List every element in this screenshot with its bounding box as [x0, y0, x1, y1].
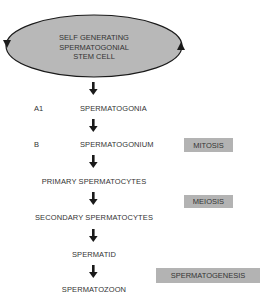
badge-meiosis: MEIOSIS — [184, 195, 233, 208]
stage-prefix-a1: A1 — [34, 104, 43, 113]
stage-spermatozoon: SPERMATOZOON — [62, 285, 126, 294]
stem-cell-line: SPERMATOGONIAL — [59, 43, 129, 53]
stem-cell-label: SELF GENERATING SPERMATOGONIAL STEM CELL — [59, 33, 129, 62]
stage-spermatid: SPERMATID — [72, 250, 116, 259]
down-arrow-icon — [89, 229, 98, 242]
badge-spermatogenesis: SPERMATOGENESIS — [156, 268, 260, 283]
down-arrow-icon — [89, 155, 98, 168]
stage-prefix-b: B — [34, 140, 39, 149]
stage-secondary-spermatocytes: SECONDARY SPERMATOCYTES — [35, 213, 153, 222]
down-arrow-icon — [89, 82, 98, 95]
down-arrow-icon — [89, 119, 98, 132]
down-arrow-icon — [89, 192, 98, 205]
down-arrow-icon — [89, 265, 98, 278]
stage-spermatogonia: SPERMATOGONIA — [80, 104, 147, 113]
stage-primary-spermatocytes: PRIMARY SPERMATOCYTES — [42, 177, 147, 186]
stem-cell-line: STEM CELL — [59, 52, 129, 62]
stem-cell-line: SELF GENERATING — [59, 33, 129, 43]
stage-spermatogonium: SPERMATOGONIUM — [80, 140, 154, 149]
badge-mitosis: MITOSIS — [184, 138, 233, 152]
